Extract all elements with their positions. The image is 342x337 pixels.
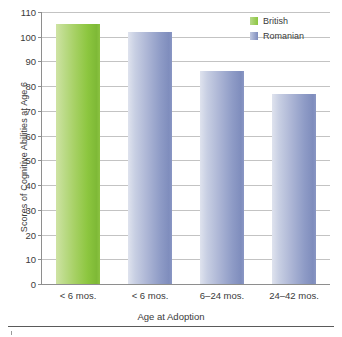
y-tick-label-110: 110 — [21, 7, 36, 18]
y-tick-mark-50 — [38, 160, 42, 161]
page-divider-rule — [8, 326, 334, 327]
x-tick-label-0: < 6 mos. — [60, 290, 97, 301]
y-axis-line — [41, 12, 42, 284]
legend-item-romanian[interactable]: Romanian — [250, 29, 304, 42]
y-tick-label-90: 90 — [25, 56, 36, 67]
bar-1 — [128, 32, 172, 284]
y-tick-mark-40 — [38, 185, 42, 186]
y-tick-label-80: 80 — [25, 81, 36, 92]
y-tick-label-30: 30 — [25, 204, 36, 215]
y-tick-label-40: 40 — [25, 180, 36, 191]
legend-swatch-icon-british — [250, 17, 258, 25]
y-tick-mark-70 — [38, 111, 42, 112]
y-tick-mark-90 — [38, 61, 42, 62]
y-tick-label-20: 20 — [25, 229, 36, 240]
y-tick-mark-10 — [38, 259, 42, 260]
x-tick-label-2: 6–24 mos. — [200, 290, 244, 301]
y-tick-label-0: 0 — [31, 279, 36, 290]
y-tick-mark-20 — [38, 235, 42, 236]
bar-0 — [56, 24, 100, 284]
x-tick-label-1: < 6 mos. — [132, 290, 169, 301]
page-divider-tick — [11, 331, 12, 335]
bar-2 — [200, 71, 244, 284]
chart-legend: BritishRomanian — [250, 14, 304, 44]
plot-area: 0102030405060708090100110 — [42, 12, 330, 284]
legend-label-romanian: Romanian — [263, 31, 304, 41]
y-tick-label-60: 60 — [25, 130, 36, 141]
bar-chart-figure: Scores of Cognitive Abilities at Age 6 0… — [0, 0, 342, 337]
y-tick-label-100: 100 — [20, 31, 36, 42]
y-tick-label-70: 70 — [25, 105, 36, 116]
legend-label-british: British — [263, 16, 288, 26]
x-axis-title: Age at Adoption — [0, 311, 342, 322]
y-tick-label-10: 10 — [25, 254, 36, 265]
legend-swatch-icon-romanian — [250, 32, 258, 40]
gridline-0 — [42, 284, 330, 285]
x-tick-label-3: 24–42 mos. — [269, 290, 319, 301]
y-tick-label-50: 50 — [25, 155, 36, 166]
y-tick-mark-30 — [38, 210, 42, 211]
y-tick-mark-0 — [38, 284, 42, 285]
y-tick-mark-110 — [38, 12, 42, 13]
gridline-110 — [42, 12, 330, 13]
y-tick-mark-100 — [38, 37, 42, 38]
y-tick-mark-60 — [38, 136, 42, 137]
legend-item-british[interactable]: British — [250, 14, 304, 27]
y-tick-mark-80 — [38, 86, 42, 87]
bar-3 — [272, 94, 316, 284]
